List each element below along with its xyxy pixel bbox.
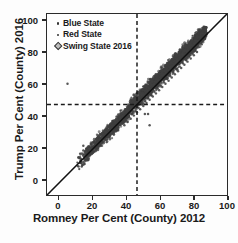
data-point	[169, 74, 171, 76]
data-point	[96, 134, 98, 136]
data-point	[83, 162, 85, 164]
legend-label-blue-state: Blue State	[63, 19, 104, 28]
data-point	[145, 84, 148, 87]
legend-marker-dot-icon	[53, 34, 63, 36]
data-point	[182, 45, 184, 47]
data-point	[104, 128, 107, 131]
data-point	[82, 145, 84, 147]
data-point	[66, 83, 68, 85]
data-point	[161, 74, 164, 77]
data-point	[193, 54, 195, 56]
data-point	[130, 96, 132, 98]
x-tick-label-40: 40	[113, 201, 139, 211]
y-tick-label-0: 0	[12, 176, 38, 186]
data-point	[133, 94, 136, 97]
data-point	[163, 69, 166, 72]
data-point	[115, 115, 118, 118]
legend-label-red-state: Red State	[63, 30, 102, 39]
data-point	[184, 44, 187, 47]
y-tick-label-20: 20	[12, 144, 38, 154]
data-point	[142, 89, 144, 91]
y-tick-label-60: 60	[12, 80, 38, 90]
data-point	[183, 64, 185, 66]
data-point	[108, 126, 110, 128]
data-point	[199, 33, 202, 36]
data-point	[81, 164, 83, 166]
data-point	[144, 113, 146, 115]
data-point	[138, 96, 141, 99]
data-point	[150, 78, 153, 81]
data-point	[167, 70, 169, 72]
data-point	[139, 108, 141, 110]
data-point	[97, 140, 99, 142]
data-point	[194, 39, 197, 42]
data-point	[167, 79, 169, 81]
data-point	[196, 51, 198, 53]
data-point	[155, 81, 157, 83]
data-point	[78, 157, 81, 160]
data-point	[189, 57, 191, 59]
data-point	[121, 122, 123, 124]
x-tick-label-0: 0	[45, 201, 71, 211]
data-point	[148, 87, 150, 89]
data-point	[118, 113, 121, 116]
data-point	[155, 92, 157, 94]
data-point	[144, 90, 146, 92]
data-point	[142, 85, 144, 87]
data-point	[179, 48, 182, 51]
data-point	[80, 152, 83, 155]
data-point	[133, 114, 135, 116]
data-point	[164, 83, 166, 85]
data-point	[119, 110, 121, 112]
data-point	[112, 120, 114, 122]
data-point	[90, 145, 93, 148]
data-point	[153, 90, 155, 92]
data-point	[172, 73, 174, 75]
y-tick-label-80: 80	[12, 48, 38, 58]
data-point	[84, 150, 86, 152]
data-point	[170, 76, 172, 78]
legend-label-swing-state: Swing State 2016	[63, 42, 132, 51]
data-point	[189, 46, 191, 48]
data-point	[180, 67, 182, 69]
data-point	[141, 93, 143, 95]
data-point	[123, 124, 125, 126]
data-point	[111, 125, 113, 127]
y-tick-label-40: 40	[12, 112, 38, 122]
data-point	[174, 58, 176, 60]
data-point	[126, 110, 128, 112]
data-point	[174, 73, 176, 75]
data-point	[158, 89, 160, 91]
legend-item-swing-state: Swing State 2016	[53, 42, 132, 51]
data-point	[122, 112, 125, 115]
data-point	[165, 66, 168, 69]
data-point	[205, 28, 207, 30]
data-point	[198, 36, 201, 39]
data-point	[102, 130, 104, 132]
data-point	[169, 61, 172, 64]
data-point	[168, 58, 170, 60]
data-point	[146, 88, 148, 90]
data-point	[102, 133, 104, 135]
data-point	[78, 168, 80, 170]
data-point	[126, 117, 128, 119]
data-point	[113, 130, 116, 133]
data-point	[148, 98, 150, 100]
data-point	[141, 103, 144, 106]
data-point	[106, 124, 108, 126]
data-point	[169, 66, 172, 69]
data-point	[120, 125, 123, 128]
x-axis-label: Romney Per Cent (County) 2012	[0, 212, 238, 224]
data-point	[106, 140, 109, 143]
data-point	[139, 89, 141, 91]
data-point	[178, 54, 181, 57]
data-point	[193, 42, 196, 45]
data-point	[159, 70, 161, 72]
data-point	[134, 97, 136, 99]
x-tick-label-60: 60	[147, 201, 173, 211]
data-point	[147, 113, 149, 115]
data-point	[144, 100, 146, 102]
data-point	[129, 118, 131, 120]
legend-item-blue-state: Blue State	[53, 19, 132, 28]
legend-marker-dot-icon	[53, 22, 63, 24]
